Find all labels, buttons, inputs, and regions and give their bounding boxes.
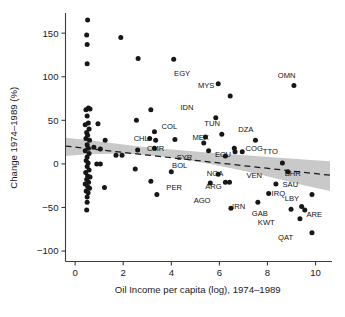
country-label-tto: TTO xyxy=(263,147,278,156)
data-point xyxy=(171,57,176,62)
data-point-irn xyxy=(255,200,260,205)
data-point xyxy=(85,42,90,47)
data-point xyxy=(120,153,125,158)
country-label-per: PER xyxy=(166,183,182,192)
data-point xyxy=(87,138,92,143)
country-label-bhr: BHR xyxy=(285,169,302,178)
data-point xyxy=(148,179,153,184)
data-point xyxy=(84,208,89,213)
country-label-dza: DZA xyxy=(238,125,254,134)
data-point xyxy=(154,192,159,197)
country-label-col: COL xyxy=(162,122,178,131)
x-tick-label: 10 xyxy=(310,267,321,278)
country-label-ago: AGO xyxy=(194,196,211,205)
data-point-irq xyxy=(266,191,271,196)
country-label-ecu: ECU xyxy=(215,150,231,159)
country-label-bol: BOL xyxy=(172,161,187,170)
y-tick-label: −50 xyxy=(42,202,58,213)
data-point xyxy=(103,138,108,143)
data-point xyxy=(85,61,90,66)
y-tick-label: 50 xyxy=(48,115,59,126)
data-point xyxy=(88,106,93,111)
country-label-irq: IRQ xyxy=(272,189,286,198)
data-point-mys xyxy=(228,93,233,98)
country-label-irn: IRN xyxy=(232,202,245,211)
y-axis-title: Change 1974–1989 (%) xyxy=(8,87,19,189)
data-point xyxy=(172,137,177,142)
data-point xyxy=(98,161,103,166)
data-point-omn xyxy=(291,83,296,88)
data-point-dza xyxy=(253,138,258,143)
data-point xyxy=(135,147,140,152)
data-point xyxy=(86,190,91,195)
data-point-kwt xyxy=(297,216,302,221)
country-label-idn: IDN xyxy=(180,103,193,112)
y-tick-label: 100 xyxy=(42,71,58,82)
country-label-tun: TUN xyxy=(204,119,220,128)
data-point xyxy=(134,118,139,123)
data-point-arg xyxy=(223,180,228,185)
data-point xyxy=(102,185,107,190)
data-point-cog xyxy=(240,149,245,154)
data-point-tun xyxy=(219,132,224,137)
data-point-egy xyxy=(216,81,221,86)
data-point xyxy=(98,147,103,152)
data-point xyxy=(152,129,157,134)
data-point xyxy=(118,35,123,40)
country-label-egy: EGY xyxy=(174,69,190,78)
data-point-ecu xyxy=(233,149,238,154)
x-tick-label: 6 xyxy=(217,267,222,278)
country-label-chl: CHL xyxy=(134,134,149,143)
x-tick-label: 2 xyxy=(121,267,126,278)
country-label-mex: MEX xyxy=(192,133,208,142)
country-label-arg: ARG xyxy=(205,182,222,191)
x-tick-label: 0 xyxy=(72,267,77,278)
data-point-sau xyxy=(309,192,314,197)
data-point-cmr xyxy=(206,148,211,153)
country-label-gab: GAB xyxy=(252,209,268,218)
data-point xyxy=(95,121,100,126)
data-point-gab xyxy=(289,207,294,212)
data-point xyxy=(84,32,89,37)
data-point xyxy=(85,195,90,200)
data-point xyxy=(136,56,141,61)
country-label-mys: MYS xyxy=(198,81,214,90)
country-label-kwt: KWT xyxy=(258,218,275,227)
y-tick-label: −100 xyxy=(37,245,59,256)
country-label-ven: VEN xyxy=(246,171,262,180)
data-point xyxy=(85,200,90,205)
country-label-qat: QAT xyxy=(278,233,293,242)
country-label-nga: NGA xyxy=(207,169,224,178)
country-label-cog: COG xyxy=(246,144,263,153)
data-point xyxy=(85,18,90,23)
y-tick-label: 150 xyxy=(42,28,58,39)
x-axis-title: Oil Income per capita (log), 1974–1989 xyxy=(115,284,281,295)
country-label-syr: SYR xyxy=(177,153,193,162)
country-label-omn: OMN xyxy=(278,71,296,80)
data-point xyxy=(113,153,118,158)
country-label-sau: SAU xyxy=(283,180,299,189)
data-point xyxy=(83,122,88,127)
data-point xyxy=(91,145,96,150)
scatter-plot-figure: −100−500501001500246810 EGYMYSOMNIDNTUNC… xyxy=(0,0,345,317)
data-point-ven xyxy=(273,181,278,186)
data-point xyxy=(148,107,153,112)
data-point xyxy=(85,113,90,118)
country-label-lby: LBY xyxy=(285,194,299,203)
data-point-qat xyxy=(309,230,314,235)
data-point xyxy=(133,167,138,172)
chart-canvas: −100−500501001500246810 EGYMYSOMNIDNTUNC… xyxy=(0,0,345,317)
country-label-cmr: CMR xyxy=(147,144,165,153)
x-tick-label: 4 xyxy=(169,267,175,278)
y-tick-label: 0 xyxy=(53,158,58,169)
data-point-tto xyxy=(280,161,285,166)
data-point xyxy=(153,138,158,143)
x-tick-label: 8 xyxy=(265,267,270,278)
country-label-are: ARE xyxy=(307,210,323,219)
